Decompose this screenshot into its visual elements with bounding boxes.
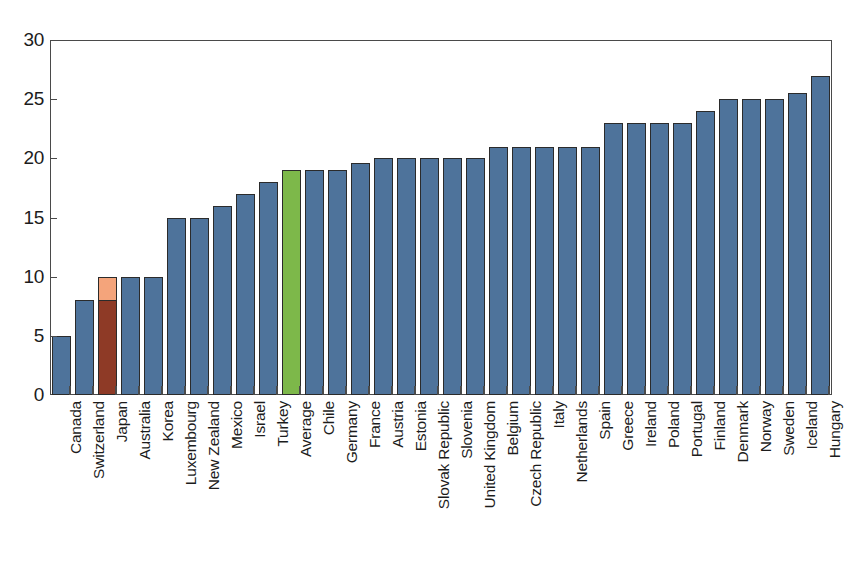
bar-slot[interactable] (98, 40, 116, 395)
bar[interactable] (742, 99, 760, 395)
bar-slot[interactable] (213, 40, 231, 395)
x-tick-mark (207, 386, 209, 395)
bar[interactable] (512, 147, 530, 396)
bar-slot[interactable] (512, 40, 530, 395)
bar[interactable] (259, 182, 277, 395)
bar[interactable] (719, 99, 737, 395)
x-axis-label: Average (298, 401, 314, 457)
bar-slot[interactable] (305, 40, 323, 395)
bar[interactable] (558, 147, 576, 396)
x-tick-mark (184, 386, 186, 395)
bar-slot[interactable] (811, 40, 829, 395)
y-tick-mark (50, 336, 57, 337)
x-axis-label: Italy (551, 401, 567, 428)
bar-slot[interactable] (650, 40, 668, 395)
x-axis-label: Chile (321, 401, 337, 435)
bar-slot[interactable] (397, 40, 415, 395)
bar[interactable] (420, 158, 438, 395)
bar-slot[interactable] (282, 40, 300, 395)
bar-segment-lower[interactable] (98, 300, 116, 395)
bar[interactable] (788, 93, 806, 395)
x-tick-mark (575, 386, 577, 395)
x-axis-label: Czech Republic (528, 401, 544, 507)
bar[interactable] (397, 158, 415, 395)
y-axis: 051015202530 (0, 40, 44, 395)
y-tick-label: 15 (23, 207, 44, 229)
bar-slot[interactable] (236, 40, 254, 395)
bar[interactable] (443, 158, 461, 395)
bar[interactable] (696, 111, 714, 395)
bar-slot[interactable] (167, 40, 185, 395)
bar[interactable] (190, 218, 208, 396)
bar[interactable] (144, 277, 162, 395)
bar-slot[interactable] (673, 40, 691, 395)
x-axis-label: Canada (68, 401, 84, 454)
x-tick-mark (115, 386, 117, 395)
x-axis-label: Finland (712, 401, 728, 450)
x-tick-mark (368, 386, 370, 395)
bar-slot[interactable] (696, 40, 714, 395)
bar[interactable] (581, 147, 599, 396)
bar-slot[interactable] (604, 40, 622, 395)
x-tick-mark (552, 386, 554, 395)
bar[interactable] (328, 170, 346, 395)
bar[interactable] (121, 277, 139, 395)
bar[interactable] (811, 76, 829, 396)
bar-slot[interactable] (788, 40, 806, 395)
bar-chart: 051015202530 CanadaSwitzerlandJapanAustr… (0, 0, 850, 573)
x-axis-label: Ireland (643, 401, 659, 447)
bar-slot[interactable] (535, 40, 553, 395)
x-axis-label: Luxembourg (183, 401, 199, 485)
x-tick-mark (230, 386, 232, 395)
x-axis-label: Slovenia (459, 401, 475, 459)
bar[interactable] (627, 123, 645, 395)
bar[interactable] (305, 170, 323, 395)
y-tick-label: 25 (23, 88, 44, 110)
bar-slot[interactable] (351, 40, 369, 395)
bar-slot[interactable] (328, 40, 346, 395)
bar[interactable] (650, 123, 668, 395)
bar-slot[interactable] (489, 40, 507, 395)
bar[interactable] (167, 218, 185, 396)
bar-slot[interactable] (765, 40, 783, 395)
bar-slot[interactable] (259, 40, 277, 395)
bar[interactable] (236, 194, 254, 395)
bar[interactable] (466, 158, 484, 395)
bar-slot[interactable] (466, 40, 484, 395)
bar[interactable] (673, 123, 691, 395)
x-tick-mark (483, 386, 485, 395)
bar-slot[interactable] (581, 40, 599, 395)
bar-slot[interactable] (190, 40, 208, 395)
bar[interactable] (535, 147, 553, 396)
bar-slot[interactable] (719, 40, 737, 395)
x-axis-label: Australia (137, 401, 153, 460)
bar-slot[interactable] (558, 40, 576, 395)
bar-slot[interactable] (121, 40, 139, 395)
x-tick-mark (276, 386, 278, 395)
bar[interactable] (374, 158, 392, 395)
bar[interactable] (489, 147, 507, 396)
bar[interactable] (282, 170, 300, 395)
bar-slot[interactable] (443, 40, 461, 395)
bar-slot[interactable] (374, 40, 392, 395)
bar-slot[interactable] (627, 40, 645, 395)
x-axis-label: Portugal (689, 401, 705, 457)
bar[interactable] (75, 300, 93, 395)
x-tick-mark (529, 386, 531, 395)
x-axis-label: New Zealand (206, 401, 222, 490)
bar-slot[interactable] (75, 40, 93, 395)
x-axis-label: Korea (160, 401, 176, 441)
bar[interactable] (765, 99, 783, 395)
bar-slot[interactable] (420, 40, 438, 395)
bar-slot[interactable] (144, 40, 162, 395)
x-axis-label: Denmark (735, 401, 751, 462)
bar[interactable] (351, 163, 369, 395)
bar-slot[interactable] (742, 40, 760, 395)
x-tick-mark (460, 386, 462, 395)
x-tick-mark (598, 386, 600, 395)
bar[interactable] (213, 206, 231, 395)
x-tick-mark (161, 386, 163, 395)
x-axis-label: Greece (620, 401, 636, 451)
x-axis-label: Mexico (229, 401, 245, 449)
bar[interactable] (604, 123, 622, 395)
